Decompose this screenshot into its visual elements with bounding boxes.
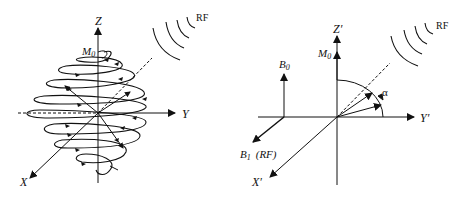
tipped-vector xyxy=(337,105,381,117)
precession-vector xyxy=(65,86,98,113)
x-prime-axis-label: X′ xyxy=(251,175,262,189)
x-axis xyxy=(30,113,98,178)
z-prime-axis-label: Z′ xyxy=(333,22,343,36)
y-prime-axis-label: Y′ xyxy=(420,111,430,125)
rf-wave-icon xyxy=(153,17,195,60)
flip-angle-label: α xyxy=(382,86,388,98)
flip-angle-arc xyxy=(337,80,383,117)
rf-wave-icon xyxy=(391,23,433,66)
m0-label: M0 xyxy=(81,45,95,59)
lab-frame-panel xyxy=(18,28,175,183)
m0-label: M0 xyxy=(317,47,331,61)
rf-label: RF xyxy=(436,20,449,31)
tipped-vector xyxy=(337,93,372,117)
x-prime-axis xyxy=(270,117,337,177)
b1-label: B1(RF) xyxy=(240,148,277,162)
b1-vector xyxy=(253,117,284,142)
z-axis-label: Z xyxy=(95,14,102,28)
rf-label: RF xyxy=(196,12,209,23)
b0-label: B0 xyxy=(279,58,290,72)
mri-diagram: Z Y X M0 RF Z′ Y′ X′ M0 B0 B1(R xyxy=(0,0,467,205)
y-axis-label: Y xyxy=(182,107,190,121)
x-axis-label: X xyxy=(19,175,28,189)
rotating-frame-panel xyxy=(253,36,414,185)
precession-vector xyxy=(98,113,123,148)
